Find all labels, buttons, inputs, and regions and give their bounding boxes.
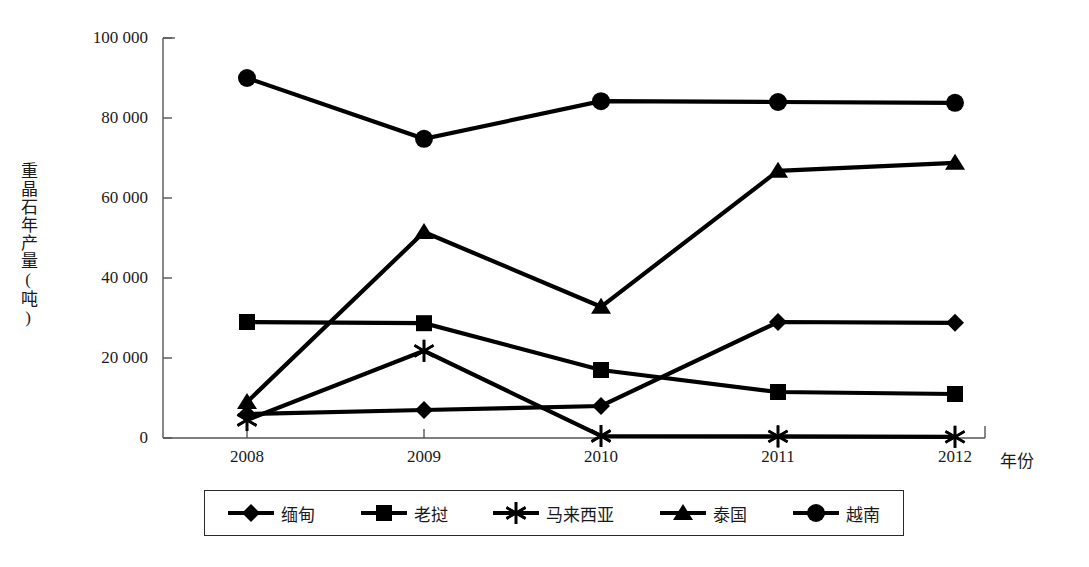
series-老挝 (239, 314, 963, 402)
marker-square (947, 386, 963, 402)
series-越南 (238, 69, 964, 148)
legend-marker-asterisk (503, 500, 529, 526)
marker-circle (592, 92, 610, 110)
marker-circle (946, 94, 964, 112)
plot-area (0, 0, 1089, 567)
marker-square (239, 314, 255, 330)
legend-item-马来西亚[interactable]: 马来西亚 (493, 501, 614, 526)
marker-circle (415, 130, 433, 148)
legend-sample (660, 505, 706, 521)
marker-asterisk (507, 502, 526, 524)
marker-circle (807, 504, 825, 522)
series-line (247, 322, 955, 394)
marker-circle (769, 93, 787, 111)
legend-label: 泰国 (713, 501, 747, 526)
legend-sample (793, 505, 839, 521)
legend-marker-square (371, 500, 397, 526)
marker-diamond (769, 313, 787, 331)
marker-triangle (673, 504, 693, 520)
legend-label: 马来西亚 (546, 501, 614, 526)
chart-legend: 缅甸老挝马来西亚泰国越南 (204, 490, 904, 536)
marker-square (770, 384, 786, 400)
legend-marker-diamond (238, 500, 264, 526)
legend-marker-triangle (670, 500, 696, 526)
marker-diamond (415, 401, 433, 419)
legend-item-越南[interactable]: 越南 (793, 501, 880, 526)
legend-item-缅甸[interactable]: 缅甸 (228, 501, 315, 526)
legend-sample (361, 505, 407, 521)
legend-label: 缅甸 (281, 501, 315, 526)
marker-square (376, 505, 392, 521)
legend-sample (228, 505, 274, 521)
legend-marker-circle (803, 500, 829, 526)
marker-diamond (592, 397, 610, 415)
legend-item-泰国[interactable]: 泰国 (660, 501, 747, 526)
legend-label: 越南 (846, 501, 880, 526)
legend-item-老挝[interactable]: 老挝 (361, 501, 448, 526)
marker-square (416, 315, 432, 331)
marker-diamond (242, 504, 260, 522)
marker-circle (238, 69, 256, 87)
barite-production-line-chart: 重晶石年产量(吨) 020 00040 00060 00080 000100 0… (0, 0, 1089, 567)
marker-triangle (414, 223, 434, 239)
legend-sample (493, 505, 539, 521)
marker-square (593, 362, 609, 378)
legend-label: 老挝 (414, 501, 448, 526)
marker-diamond (946, 314, 964, 332)
marker-asterisk (414, 340, 433, 362)
